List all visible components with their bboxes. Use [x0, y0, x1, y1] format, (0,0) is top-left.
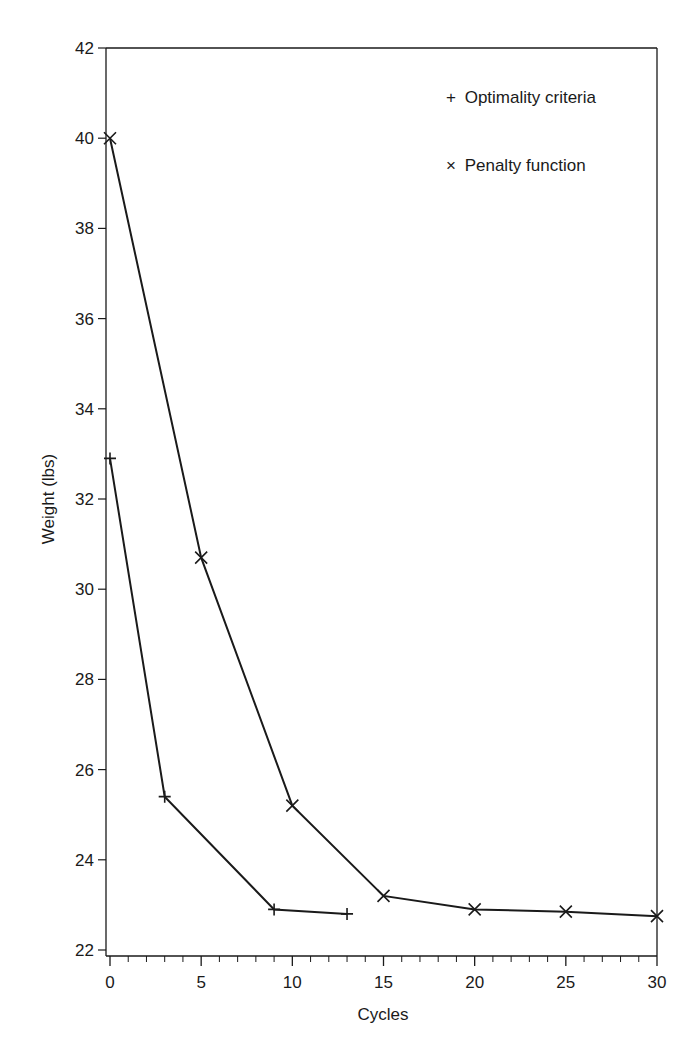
legend-item-penalty-function: × Penalty function: [446, 156, 586, 175]
plus-marker-icon: [341, 908, 353, 920]
y-tick-label: 34: [75, 400, 94, 419]
cross-marker-icon: ×: [446, 156, 456, 175]
y-tick-label: 24: [75, 851, 94, 870]
x-tick-label: 15: [374, 973, 393, 992]
legend-item-optimality-criteria: + Optimality criteria: [446, 88, 597, 107]
series-penalty-function: [104, 132, 663, 922]
x-tick-label: 20: [465, 973, 484, 992]
cross-marker-icon: [286, 800, 298, 812]
y-tick-label: 32: [75, 490, 94, 509]
y-tick-label: 26: [75, 761, 94, 780]
plus-marker-icon: +: [446, 88, 456, 107]
y-axis-title: Weight (lbs): [39, 454, 58, 544]
series-optimality-criteria: [104, 452, 353, 920]
y-tick-label: 42: [75, 39, 94, 58]
x-tick-label: 30: [648, 973, 667, 992]
x-tick-label: 10: [283, 973, 302, 992]
y-tick-label: 30: [75, 580, 94, 599]
x-tick-label: 25: [556, 973, 575, 992]
y-tick-label: 22: [75, 941, 94, 960]
y-tick-label: 28: [75, 670, 94, 689]
legend: + Optimality criteria × Penalty function: [446, 88, 597, 175]
x-tick-label: 5: [196, 973, 205, 992]
x-axis: 051015202530: [105, 956, 666, 992]
x-axis-title: Cycles: [357, 1005, 408, 1024]
y-axis: 2224262830323436384042: [75, 39, 106, 960]
y-tick-label: 38: [75, 219, 94, 238]
line-chart: 2224262830323436384042 051015202530 Cycl…: [0, 0, 700, 1058]
x-tick-label: 0: [105, 973, 114, 992]
series-layer: [104, 132, 663, 922]
y-tick-label: 36: [75, 310, 94, 329]
y-tick-label: 40: [75, 129, 94, 148]
